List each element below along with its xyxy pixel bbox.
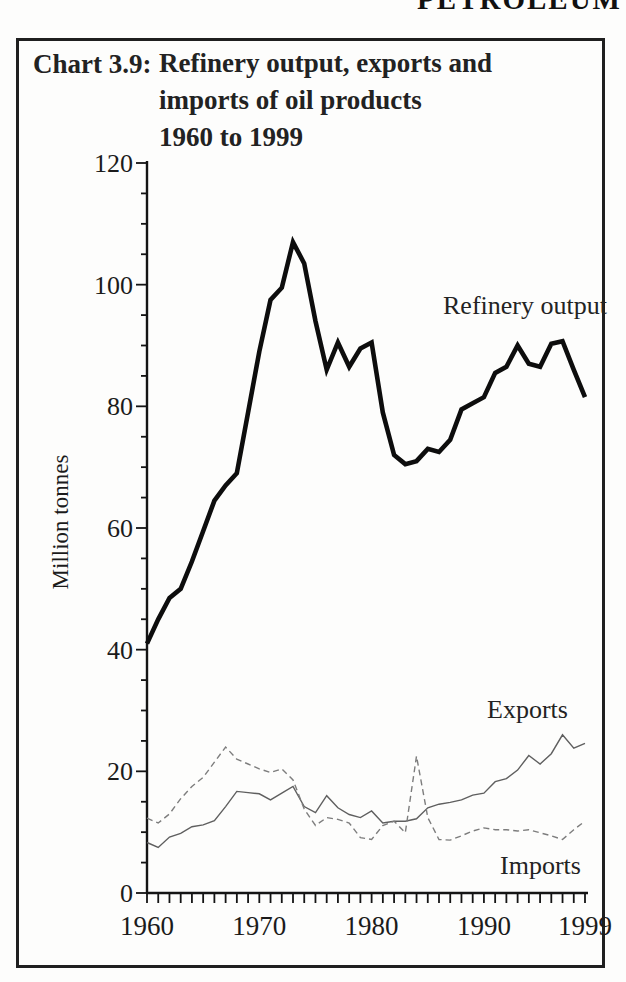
series-line-exports — [147, 735, 585, 848]
y-tick-label: 80 — [107, 392, 133, 421]
y-tick-label: 20 — [107, 757, 133, 786]
line-chart-plot: 02040608010012019601970198019901999Refin… — [0, 0, 626, 982]
series-label-imports: Imports — [500, 851, 581, 880]
y-tick-label: 40 — [107, 636, 133, 665]
x-tick-label: 1980 — [345, 911, 399, 941]
y-tick-label: 60 — [107, 514, 133, 543]
x-tick-label: 1999 — [558, 911, 612, 941]
x-tick-label: 1990 — [457, 911, 511, 941]
y-tick-label: 100 — [94, 271, 133, 300]
x-tick-label: 1960 — [120, 911, 174, 941]
x-tick-label: 1970 — [232, 911, 286, 941]
y-tick-label: 120 — [94, 149, 133, 178]
y-tick-label: 0 — [120, 879, 133, 908]
series-line-imports — [147, 747, 585, 840]
series-label-exports: Exports — [487, 695, 568, 724]
series-label-refinery-output: Refinery output — [443, 291, 608, 320]
